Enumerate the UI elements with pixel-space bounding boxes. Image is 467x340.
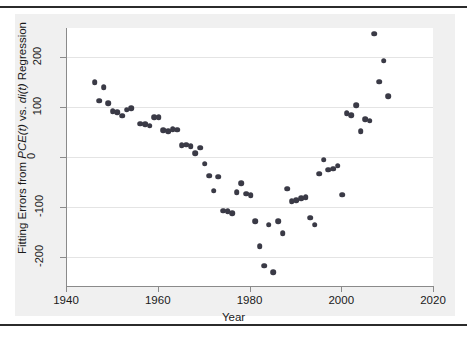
data-point <box>252 218 258 224</box>
data-point <box>96 98 102 104</box>
y-tick--100 <box>60 207 66 208</box>
data-point <box>271 269 277 275</box>
data-point <box>147 123 153 129</box>
data-point <box>367 118 373 124</box>
gridline-y--100 <box>67 207 433 208</box>
data-point <box>303 194 309 200</box>
gridline-y-100 <box>67 107 433 108</box>
data-point <box>119 113 125 119</box>
x-axis-title: Year <box>0 311 467 323</box>
data-point <box>335 163 341 169</box>
data-point <box>128 105 134 111</box>
x-tick-2000 <box>341 286 342 292</box>
data-point <box>266 222 272 228</box>
y-tick-label--200: -200 <box>33 245 45 267</box>
x-tick-label-1980: 1980 <box>237 294 263 306</box>
gridline-y-0 <box>67 157 433 158</box>
data-point <box>321 157 327 163</box>
data-point <box>101 84 107 90</box>
data-point <box>275 218 281 224</box>
x-tick-label-2020: 2020 <box>420 294 446 306</box>
data-point <box>261 263 267 269</box>
data-point <box>174 127 180 133</box>
data-point <box>206 173 212 179</box>
y-tick-200 <box>60 57 66 58</box>
x-tick-label-1960: 1960 <box>145 294 171 306</box>
data-point <box>211 188 217 194</box>
x-tick-2020 <box>433 286 434 292</box>
data-point <box>317 171 323 177</box>
data-point <box>92 79 98 85</box>
data-point <box>188 143 194 149</box>
data-point <box>229 210 235 216</box>
data-point <box>156 114 162 120</box>
x-tick-label-1940: 1940 <box>53 294 79 306</box>
plot-area <box>66 28 433 286</box>
data-point <box>257 243 263 249</box>
data-point <box>307 215 313 221</box>
data-point <box>234 189 240 195</box>
data-point <box>202 161 208 167</box>
data-point <box>193 150 199 156</box>
gridline-y-200 <box>67 57 433 58</box>
data-point <box>339 192 345 198</box>
data-point <box>349 112 355 118</box>
x-tick-1960 <box>158 286 159 292</box>
data-point <box>358 128 364 134</box>
y-tick--200 <box>60 257 66 258</box>
x-tick-label-2000: 2000 <box>328 294 354 306</box>
y-tick-label-200: 200 <box>31 47 43 65</box>
data-point <box>216 174 222 180</box>
scatter-plot: 2001000-100-200 19401960198020002020 Fit… <box>0 0 467 340</box>
x-tick-1940 <box>66 286 67 292</box>
data-point <box>385 93 391 99</box>
data-point <box>197 145 203 151</box>
data-point <box>372 31 378 37</box>
data-point <box>248 192 254 198</box>
figure-container: 2001000-100-200 19401960198020002020 Fit… <box>0 0 467 340</box>
data-point <box>280 230 286 236</box>
x-tick-1980 <box>250 286 251 292</box>
data-point <box>376 79 382 85</box>
y-axis-title: Fitting Errors from PCE(t) vs. di(t) Reg… <box>16 54 28 254</box>
y-tick-100 <box>60 107 66 108</box>
data-point <box>381 58 387 64</box>
data-point <box>284 186 290 192</box>
data-point <box>312 222 318 228</box>
gridline-y--200 <box>67 257 433 258</box>
data-point <box>353 102 359 108</box>
y-tick-label--100: -100 <box>33 195 45 217</box>
data-point <box>105 100 111 106</box>
data-point <box>239 180 245 186</box>
y-tick-label-100: 100 <box>31 97 43 115</box>
y-tick-0 <box>60 157 66 158</box>
